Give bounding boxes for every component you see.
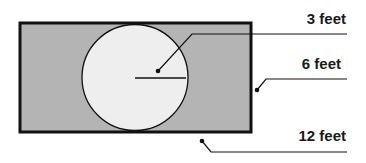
length-label: 12 feet: [298, 127, 346, 144]
width-leader-line: [257, 79, 347, 90]
diagram-svg: 3 feet 6 feet 12 feet: [0, 0, 366, 163]
width-label: 6 feet: [302, 55, 341, 72]
radius-label: 3 feet: [307, 10, 346, 27]
diagram-canvas: 3 feet 6 feet 12 feet: [0, 0, 366, 163]
